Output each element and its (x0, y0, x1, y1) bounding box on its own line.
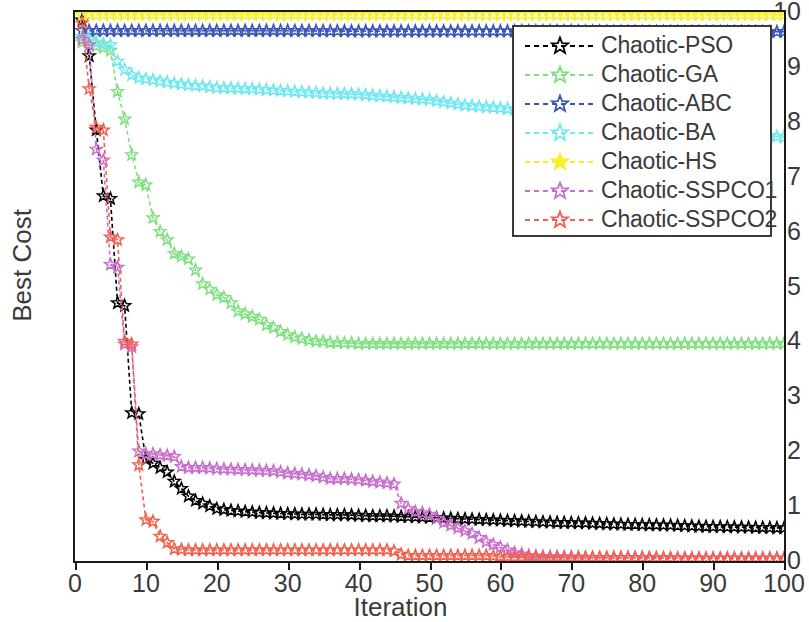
legend-swatch (523, 122, 597, 144)
legend-swatch (523, 35, 597, 57)
legend-item-chaotic-ba[interactable]: Chaotic-BA (514, 118, 770, 147)
legend-item-chaotic-hs[interactable]: Chaotic-HS (514, 147, 770, 176)
legend-label: Chaotic-BA (601, 119, 715, 146)
x-axis-title: Iteration (0, 592, 801, 622)
y-axis-title: Best Cost (7, 156, 38, 376)
series-chaotic-hs (76, 12, 784, 20)
legend-swatch (523, 180, 597, 202)
legend-label: Chaotic-ABC (601, 90, 732, 117)
legend-item-chaotic-sspco1[interactable]: Chaotic-SSPCO1 (514, 176, 770, 205)
legend-label: Chaotic-SSPCO1 (601, 177, 777, 204)
legend-label: Chaotic-PSO (601, 32, 733, 59)
legend-swatch (523, 151, 597, 173)
legend-item-chaotic-abc[interactable]: Chaotic-ABC (514, 89, 770, 118)
legend-box: Chaotic-PSOChaotic-GAChaotic-ABCChaotic-… (512, 25, 772, 237)
legend-label: Chaotic-GA (601, 61, 718, 88)
legend-item-chaotic-sspco2[interactable]: Chaotic-SSPCO2 (514, 205, 770, 234)
legend-swatch (523, 93, 597, 115)
legend-swatch (523, 209, 597, 231)
legend-label: Chaotic-SSPCO2 (601, 206, 777, 233)
legend-swatch (523, 64, 597, 86)
legend-label: Chaotic-HS (601, 148, 717, 175)
legend-item-chaotic-ga[interactable]: Chaotic-GA (514, 60, 770, 89)
legend-item-chaotic-pso[interactable]: Chaotic-PSO (514, 31, 770, 60)
